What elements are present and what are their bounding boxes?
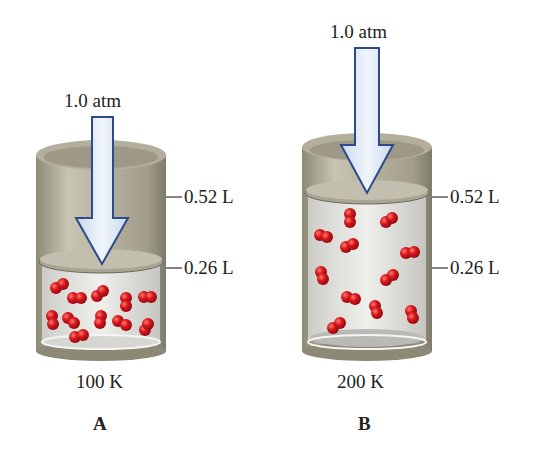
temperature-label-b: 200 K (337, 371, 384, 393)
pressure-label-a: 1.0 atm (64, 90, 121, 112)
volume-mark-0.26-a: 0.26 L (184, 257, 234, 279)
pressure-label-b: 1.0 atm (330, 21, 387, 43)
volume-mark-0.26-b: 0.26 L (450, 257, 500, 279)
volume-mark-0.52-b: 0.52 L (450, 186, 500, 208)
panel-letter-a: A (93, 413, 107, 435)
volume-mark-0.52-a: 0.52 L (184, 186, 234, 208)
panel-letter-b: B (358, 413, 371, 435)
temperature-label-a: 100 K (76, 371, 123, 393)
